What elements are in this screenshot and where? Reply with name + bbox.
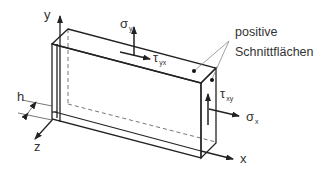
plate-stress-diagram (0, 0, 332, 170)
sigma-x-symbol: σ (246, 109, 254, 124)
sigma-y-label: σy (120, 17, 133, 30)
tau-yx-subscript: yx (159, 59, 166, 66)
tau-yx-symbol: τ (153, 50, 158, 65)
x-axis-label: x (240, 152, 247, 165)
tau-yx-arrow (120, 52, 150, 59)
positive-face-markers (192, 41, 229, 82)
y-axis-label: y (44, 8, 51, 21)
x-axis (201, 151, 233, 159)
sigma-y-subscript: y (129, 25, 133, 32)
hidden-edges (68, 29, 216, 142)
tau-xy-symbol: τ (220, 86, 225, 101)
z-axis-label: z (34, 140, 41, 153)
z-axis (35, 119, 53, 139)
sigma-x-label: σx (246, 110, 259, 123)
annotation-line-1: positive (235, 26, 277, 39)
thickness-label: h (17, 90, 24, 103)
tau-xy-subscript: xy (226, 95, 233, 102)
tau-xy-label: τxy (220, 87, 233, 100)
tau-yx-label: τyx (153, 51, 166, 64)
annotation-line-2: Schnittflächen (235, 46, 314, 59)
sigma-x-subscript: x (255, 118, 259, 125)
sigma-y-symbol: σ (120, 16, 128, 31)
sigma-x-arrow (209, 109, 239, 116)
